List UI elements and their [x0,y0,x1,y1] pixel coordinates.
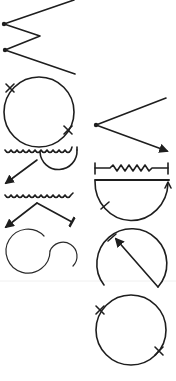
resistor-bar [95,163,168,174]
circle-two-ticks-b [96,295,166,365]
endpoint-dot [94,123,98,127]
endpoint-dot [2,22,6,26]
wavy-angle-arrow [5,193,73,227]
s-curve [6,229,77,273]
endpoint-dot [3,48,7,52]
wavy-semicircle-arrow [5,147,77,183]
zigzag-shape [2,0,75,74]
circle-diagonal-arrow [97,229,167,287]
semicircle-ticked [95,180,171,221]
cross-tick-icon [155,347,163,355]
circle-two-ticks-a [4,77,74,147]
v-arrow [94,98,167,151]
sketch-canvas [0,0,176,381]
